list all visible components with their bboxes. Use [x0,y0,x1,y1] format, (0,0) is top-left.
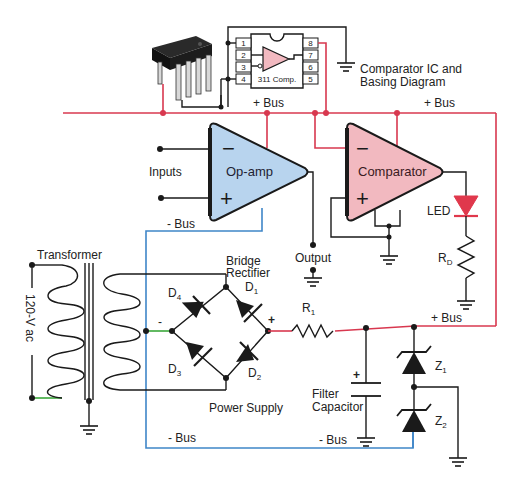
ground-icon [304,270,322,286]
schematic: 1 2 3 4 8 7 6 5 311 Comp. Comparator IC … [0,0,527,484]
resistor-rd-icon [458,236,474,278]
comparator: − + Comparator [331,124,478,310]
primary-coil-icon [47,265,84,398]
transformer-label: Transformer [37,248,102,262]
bridge-label-line2: Rectifier [226,266,270,280]
diode-d1-icon [236,300,262,322]
ic-title-line1: Comparator IC and [360,62,462,76]
z1-label: Z1 [435,359,447,375]
ground-icon [357,430,375,446]
cap-plus-label: + [353,368,360,382]
minus-bus-label-bottom-right: - Bus [319,433,347,447]
d3-label: D3 [168,362,182,378]
pin-4: 4 [241,75,246,84]
bridge-rectifier [169,284,292,381]
pin-7: 7 [308,51,313,60]
ic-title-line2: Basing Diagram [360,75,445,89]
comparator-plus-sign: + [356,186,369,211]
diode-d4-icon [182,296,210,319]
d1-label: D1 [245,280,259,296]
output-label: Output [295,251,332,265]
rd-label: RD [438,251,453,267]
ground-icon [457,293,475,309]
pin-5: 5 [308,75,313,84]
ground-icon [80,418,98,434]
pin-8: 8 [308,39,313,48]
d4-label: D4 [168,286,182,302]
r1-label: R1 [302,301,316,317]
bridge-minus-label: - [158,315,162,329]
z2-label: Z2 [435,414,447,430]
ground-icon [380,248,398,264]
d2-label: D2 [248,366,262,382]
cap-label-line1: Filter [312,387,339,401]
opamp-minus-sign: − [222,136,235,161]
pin-6: 6 [308,63,313,72]
opamp-plus-sign: + [220,186,233,211]
pin-3: 3 [241,63,246,72]
secondary-coil-icon [104,274,226,390]
inputs-label: Inputs [149,165,182,179]
pin-2: 2 [241,51,246,60]
plus-bus-label-right: + Bus [424,96,455,110]
opamp-label: Op-amp [226,164,273,179]
plus-bus-label-mid: + Bus [431,311,462,325]
bridge-plus-label: + [268,313,275,327]
ground-icon [337,55,355,71]
plus-bus-label-left: + Bus [253,96,284,110]
ic-basing-diagram: 1 2 3 4 8 7 6 5 311 Comp. [219,27,356,113]
power-supply-label: Power Supply [209,401,283,415]
minus-bus-label-bottom-left: - Bus [168,431,196,445]
comparator-label: Comparator [358,164,427,179]
resistor-r1-icon [292,325,333,337]
ac-source: 120-V ac [23,280,37,342]
cap-label-line2: Capacitor [312,400,363,414]
ground-icon [449,450,467,466]
led-icon [454,196,478,216]
pin-1: 1 [241,39,246,48]
led-label: LED [427,204,451,218]
ac-label: 120-V ac [23,294,37,342]
minus-bus-label-opamp: - Bus [167,217,195,231]
comparator-minus-sign: − [356,136,369,161]
ic-chip-label: 311 Comp. [258,75,297,84]
